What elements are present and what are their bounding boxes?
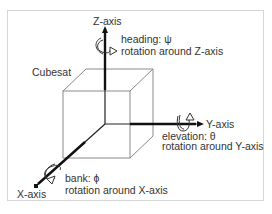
z-axis (102, 26, 108, 124)
bank-label: bank: ϕ (65, 172, 99, 184)
y-rotation-arrow-icon (177, 113, 194, 131)
y-axis-label: Y-axis (206, 118, 234, 130)
z-axis-label: Z-axis (93, 15, 122, 27)
heading-rotation-text: rotation around Z-axis (121, 45, 223, 57)
cube-top-right-diagonal (130, 69, 153, 91)
y-axis-arrowhead (197, 121, 204, 127)
heading-label: heading: ψ (121, 33, 172, 45)
z-axis-arrowhead (102, 26, 108, 33)
bank-rotation-text: rotation around X-axis (65, 184, 168, 196)
x-axis-label: X-axis (17, 188, 46, 200)
cubesat-cube (63, 69, 153, 158)
elevation-rotation-text: rotation around Y-axis (162, 140, 264, 152)
cubesat-label: Cubesat (32, 66, 71, 78)
z-rotation-arrow-icon (96, 38, 117, 55)
